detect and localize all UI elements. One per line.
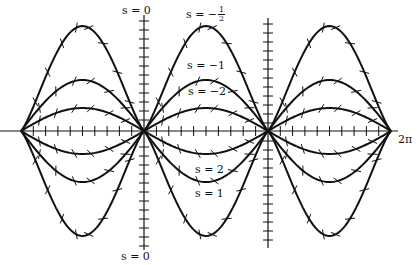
solution-curve <box>268 131 391 236</box>
solution-curve <box>144 131 268 236</box>
solution-curves-plot <box>0 0 419 265</box>
label-bottom-s0: s = 0 <box>121 251 150 262</box>
solution-curve <box>21 26 144 131</box>
label-s-1: s = 1 <box>195 188 224 199</box>
label-s-neg-half: s = −12 <box>186 6 225 23</box>
direction-field-diagram: s = 0 s = 0 2π s = −12 s = −1 s = −2 s =… <box>0 0 419 265</box>
label-2pi: 2π <box>398 134 412 145</box>
label-s-neg-2: s = −2 <box>188 86 226 97</box>
label-top-s0: s = 0 <box>122 5 151 16</box>
label-s-neg-1: s = −1 <box>187 60 225 71</box>
label-s-2: s = 2 <box>195 164 224 175</box>
solution-curve <box>144 26 268 131</box>
solution-curve <box>268 26 391 131</box>
solution-curve <box>21 131 144 236</box>
